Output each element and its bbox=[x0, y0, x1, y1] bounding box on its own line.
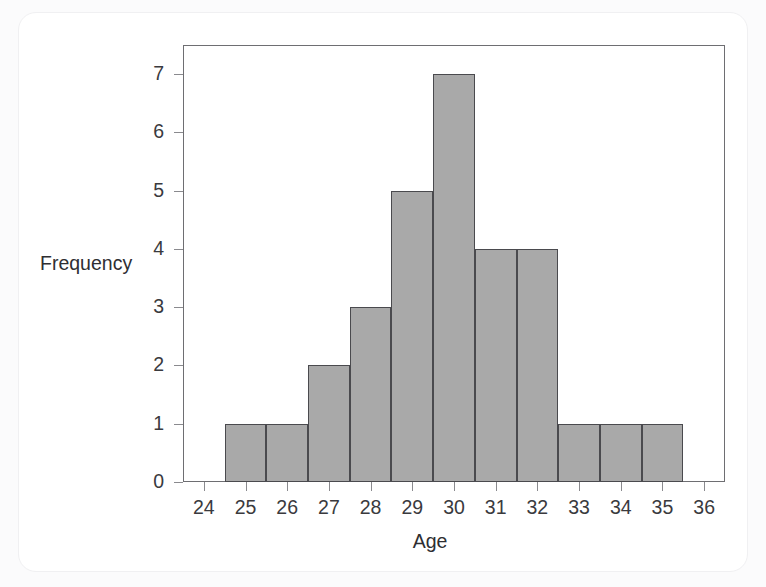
y-axis-tick bbox=[174, 482, 183, 483]
y-axis-tick-label: 0 bbox=[138, 472, 164, 492]
x-axis-tick-label: 28 bbox=[351, 496, 391, 519]
y-axis-tick-label: 1 bbox=[138, 414, 164, 434]
histogram-bar bbox=[642, 424, 684, 482]
x-axis-tick-label: 31 bbox=[476, 496, 516, 519]
x-axis-title-text: Age bbox=[413, 530, 448, 552]
y-axis-tick-label: 5 bbox=[138, 181, 164, 201]
y-axis-tick-label: 7 bbox=[138, 64, 164, 84]
histogram-bar bbox=[266, 424, 308, 482]
x-axis-tick bbox=[704, 482, 705, 491]
x-axis-tick bbox=[662, 482, 663, 491]
y-axis-title: Frequency bbox=[40, 252, 132, 275]
x-axis-tick bbox=[246, 482, 247, 491]
x-axis-tick-label: 26 bbox=[267, 496, 307, 519]
y-axis-tick bbox=[174, 132, 183, 133]
x-axis-tick-label: 35 bbox=[642, 496, 682, 519]
histogram-bar bbox=[225, 424, 267, 482]
histogram-bar bbox=[350, 307, 392, 482]
x-axis-tick bbox=[204, 482, 205, 491]
x-axis-tick bbox=[621, 482, 622, 491]
histogram-bar bbox=[308, 365, 350, 482]
x-axis-tick bbox=[579, 482, 580, 491]
x-axis-tick-label: 34 bbox=[601, 496, 641, 519]
x-axis-title: Age bbox=[0, 530, 766, 553]
x-axis-tick-label: 33 bbox=[559, 496, 599, 519]
x-axis-tick-label: 30 bbox=[434, 496, 474, 519]
y-axis-tick-label: 4 bbox=[138, 239, 164, 259]
x-axis-tick bbox=[329, 482, 330, 491]
x-axis-tick bbox=[454, 482, 455, 491]
x-axis-tick bbox=[412, 482, 413, 491]
histogram-bar bbox=[600, 424, 642, 482]
histogram-bar bbox=[517, 249, 559, 482]
x-axis-tick-label: 25 bbox=[226, 496, 266, 519]
bars-layer bbox=[183, 45, 725, 482]
y-axis-tick-label: 3 bbox=[138, 297, 164, 317]
x-axis-tick-label: 36 bbox=[684, 496, 724, 519]
x-axis-tick-label: 32 bbox=[517, 496, 557, 519]
x-axis-tick bbox=[287, 482, 288, 491]
y-axis-tick bbox=[174, 74, 183, 75]
y-axis-tick bbox=[174, 424, 183, 425]
x-axis-tick bbox=[537, 482, 538, 491]
y-axis-tick bbox=[174, 365, 183, 366]
y-axis-tick bbox=[174, 249, 183, 250]
y-axis-tick bbox=[174, 191, 183, 192]
y-axis-tick-label: 2 bbox=[138, 355, 164, 375]
x-axis-tick-label: 29 bbox=[392, 496, 432, 519]
x-axis-tick-label: 27 bbox=[309, 496, 349, 519]
x-axis-tick bbox=[496, 482, 497, 491]
x-axis-tick bbox=[371, 482, 372, 491]
histogram-bar bbox=[433, 74, 475, 482]
y-axis-tick-label: 6 bbox=[138, 122, 164, 142]
histogram-bar bbox=[475, 249, 517, 482]
histogram-bar bbox=[558, 424, 600, 482]
x-axis-tick-label: 24 bbox=[184, 496, 224, 519]
histogram-chart: 01234567 24252627282930313233343536 Freq… bbox=[0, 0, 766, 587]
y-axis-tick bbox=[174, 307, 183, 308]
histogram-bar bbox=[391, 191, 433, 482]
